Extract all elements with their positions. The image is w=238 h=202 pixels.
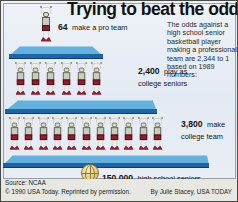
page-title: Trying to beat the odds xyxy=(67,1,237,19)
label-college-team-number: 3,800 xyxy=(181,119,203,129)
basketball-icon xyxy=(81,164,99,179)
figure-legs xyxy=(55,140,61,147)
figure-legs xyxy=(63,85,69,92)
figure-legs xyxy=(155,140,161,147)
footer: Source: NCAA © 1990 USA Today. Reprinted… xyxy=(1,179,237,201)
footer-credit: By Julie Stacey, USA TODAY xyxy=(151,188,232,195)
infographic-root: Trying to beat the odds The odds against… xyxy=(0,0,238,202)
figure-legs xyxy=(94,85,100,92)
label-college-team: 3,800 make college team xyxy=(181,117,233,142)
label-college-seniors: 2,400 play as college seniors xyxy=(138,64,192,89)
platform-edge-line xyxy=(5,113,157,114)
chart-panel: Trying to beat the odds The odds against… xyxy=(1,1,237,179)
platform-edge-line xyxy=(9,58,103,59)
label-pro-number: 64 xyxy=(58,22,68,32)
figure-legs xyxy=(12,140,18,147)
footer-source: Source: NCAA xyxy=(5,179,46,186)
label-college-seniors-number: 2,400 xyxy=(138,66,160,76)
figure-legs xyxy=(98,140,104,147)
figure-legs xyxy=(112,140,118,147)
figure-legs xyxy=(43,31,49,39)
figure-legs xyxy=(18,85,24,92)
footer-copyright: © 1990 USA Today. Reprinted by permissio… xyxy=(5,188,131,195)
label-high-school: 150,000 high school seniors xyxy=(102,167,201,179)
label-pro-text: make a pro team xyxy=(72,23,127,32)
figure-legs xyxy=(79,85,85,92)
basketball-seam-right xyxy=(85,164,99,179)
figure-legs xyxy=(33,85,39,92)
figure-legs xyxy=(26,140,32,147)
figure-legs xyxy=(140,140,146,147)
figure-legs xyxy=(69,140,75,147)
label-pro: 64 make a pro team xyxy=(58,20,128,32)
figure-legs xyxy=(40,140,46,147)
figure-legs xyxy=(48,85,54,92)
figure-legs xyxy=(83,140,89,147)
platform-college-seniors xyxy=(5,100,157,115)
figure-legs xyxy=(126,140,132,147)
platform-pro xyxy=(9,46,103,60)
